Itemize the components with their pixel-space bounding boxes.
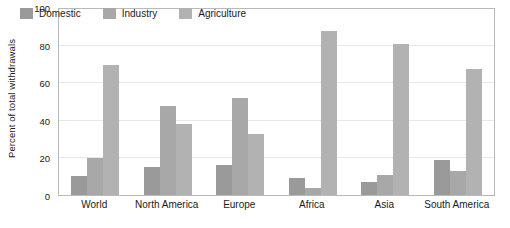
bar	[377, 175, 393, 195]
x-tick-label: North America	[135, 199, 198, 210]
legend-swatch-icon	[20, 8, 33, 19]
bar	[305, 188, 321, 195]
bar	[160, 106, 176, 195]
x-tick-label: Africa	[299, 199, 325, 210]
bar	[321, 31, 337, 195]
bars-layer	[59, 9, 494, 195]
bar	[289, 178, 305, 195]
bar	[232, 98, 248, 195]
y-axis-title: Percent of total withdrawals	[0, 0, 22, 196]
bar	[466, 69, 482, 195]
x-tick-label: Europe	[223, 199, 255, 210]
bar	[393, 44, 409, 195]
bar-group	[132, 9, 205, 195]
bar-group	[277, 9, 350, 195]
y-tick-label: 0	[45, 191, 50, 202]
bar	[361, 182, 377, 195]
y-tick-label: 20	[39, 153, 50, 164]
legend-entry: Domestic	[20, 8, 81, 19]
legend-label: Industry	[122, 8, 158, 19]
bar	[434, 160, 450, 195]
bar-group	[59, 9, 132, 195]
y-tick-label: 80	[39, 40, 50, 51]
bar	[176, 124, 192, 195]
chart-legend: DomesticIndustryAgriculture	[20, 8, 246, 19]
y-axis-title-text: Percent of total withdrawals	[6, 39, 17, 158]
bar-group	[204, 9, 277, 195]
bar-group	[349, 9, 422, 195]
bar	[144, 167, 160, 195]
bar	[216, 165, 232, 195]
legend-swatch-icon	[103, 8, 116, 19]
y-tick-label: 40	[39, 115, 50, 126]
legend-entry: Agriculture	[179, 8, 246, 19]
bar-group	[422, 9, 495, 195]
x-axis-tick-labels: WorldNorth AmericaEuropeAfricaAsiaSouth …	[58, 199, 495, 219]
bar	[87, 158, 103, 195]
legend-swatch-icon	[179, 8, 192, 19]
x-tick-label: South America	[424, 199, 489, 210]
bar	[248, 134, 264, 195]
legend-label: Domestic	[39, 8, 81, 19]
bar	[71, 176, 87, 195]
legend-entry: Industry	[103, 8, 158, 19]
x-tick-label: World	[81, 199, 107, 210]
x-tick-label: Asia	[375, 199, 394, 210]
legend-label: Agriculture	[198, 8, 246, 19]
bar	[450, 171, 466, 195]
bar-chart: Percent of total withdrawals 02040608010…	[0, 0, 510, 228]
bar	[103, 65, 119, 195]
plot-area	[58, 8, 495, 196]
y-axis-tick-labels: 020406080100	[22, 8, 54, 196]
y-tick-label: 60	[39, 78, 50, 89]
